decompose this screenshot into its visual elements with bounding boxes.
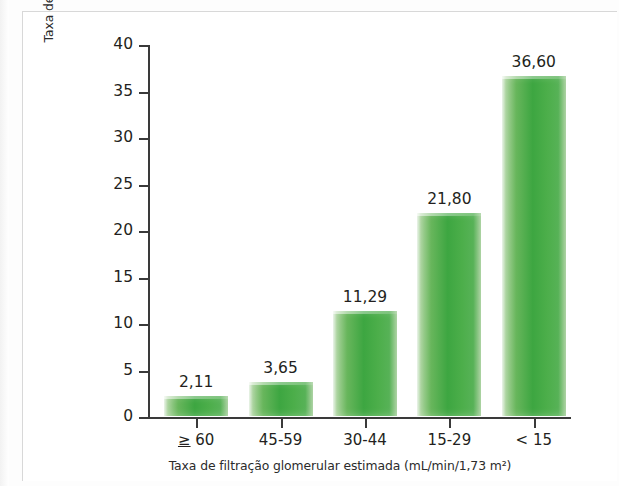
plot-area: 0510152025303540 2,113,6511,2921,8036,60… (148, 45, 570, 418)
y-tick: 30 (139, 138, 148, 140)
y-tick-label: 10 (113, 314, 133, 332)
y-tick-label: 35 (113, 82, 133, 100)
y-tick-label: 20 (113, 221, 133, 239)
bar-value-label: 11,29 (343, 288, 387, 306)
y-tick: 40 (139, 45, 148, 47)
y-tick-label: 25 (113, 175, 133, 193)
x-tick-label: 45-59 (259, 431, 303, 449)
bar: 36,60 (502, 76, 566, 416)
y-axis-title: Taxa de eventos cardiovasculares ajustad… (36, 0, 76, 68)
y-tick-label: 30 (113, 128, 133, 146)
y-tick-label: 40 (113, 35, 133, 53)
y-tick: 35 (139, 92, 148, 94)
y-axis-title-text: Taxa de eventos cardiovasculares ajustad… (41, 0, 71, 42)
x-tick-label: ≥ 60 (178, 431, 214, 449)
y-tick: 15 (139, 278, 148, 280)
bar: 2,11 (164, 396, 228, 416)
bar: 3,65 (249, 382, 313, 416)
x-tick (196, 419, 198, 428)
x-axis-title: Taxa de filtração glomerular estimada (m… (120, 458, 560, 473)
x-tick (281, 419, 283, 428)
x-tick-label: 15-29 (428, 431, 472, 449)
bar: 21,80 (417, 213, 481, 416)
y-tick: 0 (139, 417, 148, 419)
y-tick: 20 (139, 231, 148, 233)
x-axis-line (148, 417, 571, 419)
x-tick-label: 30-44 (343, 431, 387, 449)
page-edge-shadow (0, 0, 9, 486)
y-axis-line (148, 45, 150, 419)
y-tick: 25 (139, 185, 148, 187)
x-tick (365, 419, 367, 428)
x-tick (534, 419, 536, 428)
figure-root: Taxa de eventos cardiovasculares ajustad… (0, 0, 619, 486)
x-tick (449, 419, 451, 428)
bar: 11,29 (333, 311, 397, 416)
y-tick-label: 5 (123, 361, 133, 379)
bar-value-label: 36,60 (512, 53, 556, 71)
bar-value-label: 3,65 (263, 359, 298, 377)
bar-value-label: 21,80 (427, 190, 471, 208)
y-tick-label: 15 (113, 268, 133, 286)
y-tick-label: 0 (123, 407, 133, 425)
bar-value-label: 2,11 (179, 373, 214, 391)
y-tick: 10 (139, 324, 148, 326)
y-tick: 5 (139, 371, 148, 373)
x-tick-label: < 15 (516, 431, 552, 449)
